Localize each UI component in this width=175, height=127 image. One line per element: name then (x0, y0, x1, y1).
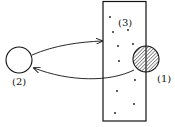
label-region-3: (3) (118, 17, 132, 28)
particle-dots (109, 16, 136, 114)
region-1-hatched-circle (133, 46, 159, 72)
label-region-1: (1) (157, 73, 171, 84)
label-region-2: (2) (12, 76, 26, 87)
diagram-canvas: (3) (2) (1) (0, 0, 175, 127)
arrow-2-to-3 (32, 41, 102, 55)
region-2-circle (6, 47, 32, 73)
arrow-1-to-2 (34, 68, 134, 79)
